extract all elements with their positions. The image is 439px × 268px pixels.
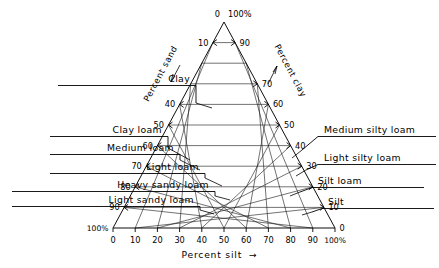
right-category-label-silt: Silt [328, 196, 344, 207]
left-axis-tick-70: 70 [131, 161, 141, 171]
right-category-leader-light-silty-loam [306, 165, 436, 171]
interior-pointer-4 [215, 196, 230, 200]
right-category-label-light-silty-loam: Light silty loam [324, 152, 401, 163]
right-axis-tick-0: 0 [340, 223, 345, 233]
category-labels: ClayClay loamMedium loamLight loamHeavy … [12, 73, 436, 212]
left-category-label-medium-loam: Medium loam [107, 142, 174, 153]
apex-left-value: 0 [215, 9, 220, 19]
right-category-leader-medium-silty-loam [302, 137, 436, 151]
bottom-axis-tick-80: 80 [285, 235, 295, 245]
left-axis-tick-10: 10 [198, 38, 208, 48]
left-category-leader-clay [58, 86, 196, 104]
bottom-axis-tick-40: 40 [197, 235, 207, 245]
bottom-axis-title: Percent silt→ [181, 249, 257, 260]
left-category-leader-light-sandy-loam [12, 207, 200, 211]
apex-right-value: 100% [228, 9, 252, 19]
bottom-axis-tick-0: 0 [110, 235, 115, 245]
bottom-axis-tick-50: 50 [219, 235, 229, 245]
left-category-label-light-loam: Light loam [146, 161, 199, 172]
bottom-axis-tick-20: 20 [152, 235, 162, 245]
right-category-label-medium-silty-loam: Medium silty loam [324, 124, 415, 135]
interior-pointer-0 [196, 103, 212, 108]
right-axis-title: Percent clay [272, 42, 308, 98]
ternary-diagram: 0 100% Percent sand Percent clay Percent… [0, 0, 439, 268]
left-category-label-heavy-sandy-loam: Heavy sandy loam [117, 179, 209, 190]
bottom-axis-tick-60: 60 [241, 235, 251, 245]
right-axis-tick-90: 90 [240, 38, 250, 48]
left-axis-tick-40: 40 [165, 99, 175, 109]
left-category-leader-light-loam [50, 174, 205, 179]
interior-pointer-7 [296, 170, 306, 176]
interior-pointer-5 [200, 210, 214, 214]
bottom-axis-tick-70: 70 [263, 235, 273, 245]
right-category-label-silt-loam: Silt loam [318, 175, 362, 186]
bottom-axis-tick-90: 90 [308, 235, 318, 245]
bottom-axis-title-text: Percent silt [181, 249, 242, 260]
bottom-axis-tick-10: 10 [130, 235, 140, 245]
right-axis-tick-50: 50 [284, 120, 294, 130]
left-category-leader-medium-loam [50, 155, 180, 161]
soil-texture-triangle-figure: 0 100% Percent sand Percent clay Percent… [0, 0, 439, 268]
right-axis-tick-40: 40 [295, 141, 305, 151]
left-axis-tick-100: 100% [87, 224, 109, 233]
left-category-label-clay-loam: Clay loam [113, 124, 162, 135]
bottom-axis-tick-30: 30 [174, 235, 184, 245]
right-axis-tick-60: 60 [273, 99, 283, 109]
bottom-axis-arrow-icon: → [249, 249, 258, 260]
left-category-label-light-sandy-loam: Light sandy loam [108, 194, 194, 205]
bottom-axis-tick-100: 100% [324, 236, 346, 245]
right-axis-tick-70: 70 [262, 79, 272, 89]
left-category-label-clay: Clay [168, 73, 190, 84]
